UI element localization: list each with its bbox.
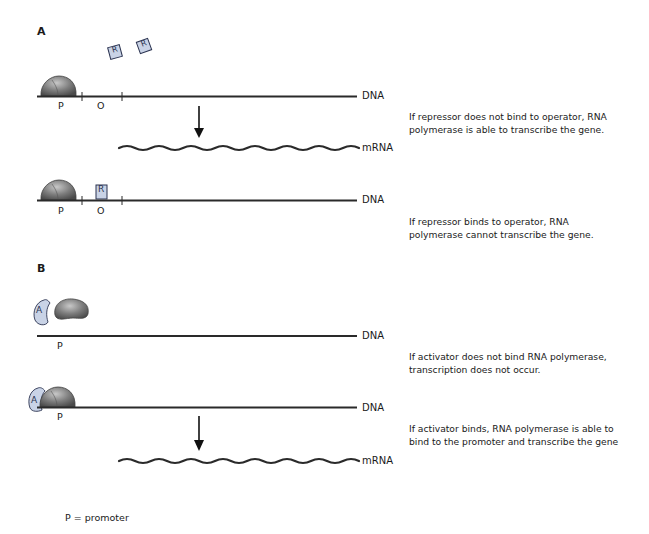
promoter-label: P [58,100,64,111]
rna-polymerase-b1 [55,299,89,319]
promoter-label: P [57,340,63,351]
caption-a2: If repressor binds to operator, RNA poly… [409,215,594,241]
legend-text: P = promoter [65,512,129,523]
diagram-graphics [0,0,649,534]
caption-line: polymerase cannot transcribe the gene. [409,228,594,241]
arrow-down-icon [194,106,204,138]
promoter-label: P [57,411,63,422]
caption-line: transcription does not occur. [409,363,607,376]
caption-a1: If repressor does not bind to operator, … [409,110,607,136]
dna-label: DNA [362,330,384,341]
panel-b-label: B [37,262,45,275]
caption-line: If activator binds, RNA polymerase is ab… [409,422,618,435]
caption-b1: If activator does not bind RNA polymeras… [409,350,607,376]
mrna-label: mRNA [362,455,393,466]
dna-label: DNA [362,194,384,205]
mrna-strand-b2 [119,459,359,463]
caption-line: If activator does not bind RNA polymeras… [409,350,607,363]
promoter-label: P [58,205,64,216]
caption-line: polymerase is able to transcribe the gen… [409,123,607,136]
operator-label: O [97,205,104,216]
arrow-down-icon [194,416,204,451]
dna-label: DNA [362,90,384,101]
rna-polymerase-a2 [41,180,76,200]
caption-line: If repressor does not bind to operator, … [409,110,607,123]
rna-polymerase-b2 [40,387,75,407]
bound-repressor-label: R [98,184,104,194]
caption-line: bind to the promoter and transcribe the … [409,435,618,448]
rna-polymerase-a1 [41,76,76,96]
panel-a-label: A [37,25,46,38]
mrna-strand-a1 [119,146,359,150]
operator-label: O [97,100,104,111]
caption-b2: If activator binds, RNA polymerase is ab… [409,422,618,448]
activator-label: A [36,305,42,315]
activator-label: A [31,395,37,405]
dna-label: DNA [362,402,384,413]
mrna-label: mRNA [362,142,393,153]
caption-line: If repressor binds to operator, RNA [409,215,594,228]
